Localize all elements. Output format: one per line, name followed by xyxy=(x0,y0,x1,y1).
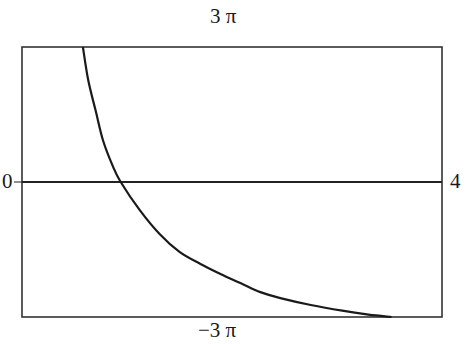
plot-area xyxy=(0,0,470,344)
